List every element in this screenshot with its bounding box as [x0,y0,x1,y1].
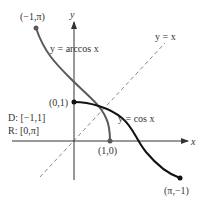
label-1-0: (1,0) [98,145,117,157]
range-text: R: [0,π] [8,125,39,136]
identity-label: y = x [155,31,176,42]
y-axis-label: y [69,9,75,20]
label-pi-neg1: (π,−1) [164,185,189,197]
point-pi-neg1 [178,176,183,181]
label-neg1-pi: (−1,π) [20,11,45,23]
domain-text: D: [−1,1] [8,112,45,123]
x-axis-label: x [190,136,196,147]
label-0-1: (0,1) [49,97,68,109]
inverse-cosine-diagram: x y y = arccos x y = x y = cos x (−1,π) … [0,0,204,207]
cos-label: y = cos x [118,113,154,124]
arccos-label: y = arccos x [50,43,99,54]
point-0-1 [72,100,77,105]
point-1-0 [108,139,113,144]
point-neg1-pi [34,26,39,31]
